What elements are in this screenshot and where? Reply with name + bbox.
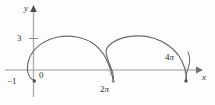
- start-point-marker: [33, 79, 36, 82]
- y-tick-label-negative-one: −1: [7, 77, 17, 86]
- origin-label: 0: [39, 71, 44, 80]
- end-point-marker: [184, 79, 187, 82]
- x-tick-2pi-symbol: π: [105, 84, 110, 94]
- y-axis-arrowhead: [30, 5, 37, 12]
- curve-loop-4pi-hook: [186, 52, 190, 81]
- y-tick-label-3: 3: [17, 34, 22, 43]
- x-tick-label-2pi: 2π: [100, 85, 109, 94]
- y-axis-label: y: [24, 4, 28, 13]
- curve-arch-second: [106, 36, 186, 81]
- x-axis-label: x: [202, 73, 206, 82]
- loop-bottom-point-marker: [112, 80, 115, 83]
- cycloid-graph-figure: y x 3 0 −1 2π 4π: [0, 0, 215, 105]
- x-tick-label-4pi: 4π: [165, 53, 174, 62]
- x-tick-4pi-symbol: π: [170, 52, 175, 62]
